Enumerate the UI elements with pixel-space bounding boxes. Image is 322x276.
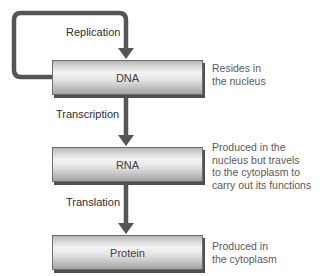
dna-box: DNA [52,60,203,95]
translation-arrow [118,184,134,234]
central-dogma-diagram: Replication Transcription Translation DN… [0,0,322,276]
rna-note-line: nucleus but travels [212,154,311,167]
transcription-label: Transcription [56,108,119,120]
dna-note-line: Resides in [212,62,266,75]
rna-box-label: RNA [116,159,139,171]
transcription-arrow [118,97,134,146]
protein-note-line: Produced in [212,240,277,253]
rna-note-line: Produced in the [212,141,311,154]
rna-note-line: carry out its functions [212,179,311,192]
protein-note: Produced in the cytoplasm [212,240,277,265]
translation-label: Translation [66,196,120,208]
rna-box: RNA [52,147,203,182]
rna-note-line: to the cytoplasm to [212,166,311,179]
protein-box-label: Protein [110,247,145,259]
protein-box: Protein [52,235,203,270]
dna-note-line: the nucleus [212,75,266,88]
dna-box-label: DNA [116,72,139,84]
replication-label: Replication [66,26,120,38]
dna-note: Resides in the nucleus [212,62,266,87]
rna-note: Produced in the nucleus but travels to t… [212,141,311,191]
protein-note-line: the cytoplasm [212,253,277,266]
